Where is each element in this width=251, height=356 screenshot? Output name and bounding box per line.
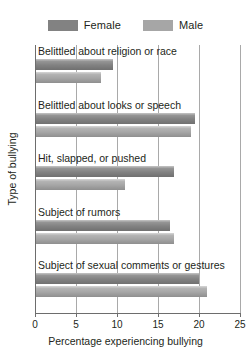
x-tick-20 [199, 313, 200, 317]
bar-male [35, 179, 125, 190]
x-tick-5 [76, 313, 77, 317]
legend-item-male: Male [143, 20, 203, 31]
bar-group: Hit, slapped, or pushed [35, 152, 240, 206]
bar-chart: Female Male Belittled about religion or … [0, 0, 251, 356]
legend-label-female: Female [84, 20, 121, 31]
category-label: Subject of rumors [38, 206, 120, 218]
legend-label-male: Male [179, 20, 203, 31]
x-tick-0 [35, 313, 36, 317]
bar-female [35, 220, 170, 231]
bar-male [35, 126, 191, 137]
x-tick-label-15: 15 [146, 319, 170, 330]
bar-male [35, 233, 174, 244]
gridline-25 [240, 45, 241, 313]
bar-group: Belittled about looks or speech [35, 99, 240, 153]
x-tick-label-5: 5 [64, 319, 88, 330]
bar-female [35, 273, 199, 284]
bar-group: Subject of rumors [35, 206, 240, 260]
y-axis-label: Type of bullying [6, 99, 18, 239]
bar-female [35, 166, 174, 177]
y-axis-line [35, 45, 36, 314]
legend-item-female: Female [48, 20, 121, 31]
chart-legend: Female Male [0, 16, 251, 34]
bar-female [35, 59, 113, 70]
bar-female [35, 113, 195, 124]
legend-swatch-female [48, 20, 78, 31]
bar-male [35, 286, 207, 297]
x-tick-label-0: 0 [23, 319, 47, 330]
legend-swatch-male [143, 20, 173, 31]
plot-area: Belittled about religion or raceBelittle… [35, 45, 240, 313]
bar-groups: Belittled about religion or raceBelittle… [35, 45, 240, 313]
x-axis-line [35, 313, 241, 314]
bar-group: Belittled about religion or race [35, 45, 240, 99]
x-tick-25 [240, 313, 241, 317]
category-label: Hit, slapped, or pushed [38, 152, 146, 164]
category-label: Subject of sexual comments or gestures [38, 259, 225, 271]
category-label: Belittled about looks or speech [38, 99, 181, 111]
x-tick-10 [117, 313, 118, 317]
bar-group: Subject of sexual comments or gestures [35, 259, 240, 313]
bar-male [35, 72, 101, 83]
x-tick-15 [158, 313, 159, 317]
x-tick-label-10: 10 [105, 319, 129, 330]
x-tick-label-25: 25 [228, 319, 251, 330]
x-axis-label: Percentage experiencing bullying [0, 335, 251, 347]
category-label: Belittled about religion or race [38, 45, 177, 57]
x-tick-label-20: 20 [187, 319, 211, 330]
